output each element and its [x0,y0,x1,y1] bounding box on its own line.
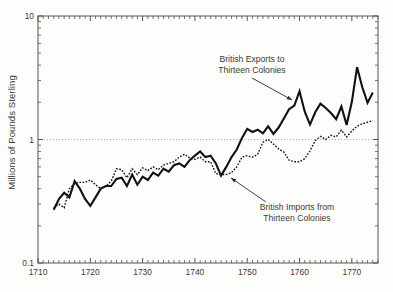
y-tick-label: 10 [25,11,35,21]
x-tick-label: 1720 [81,267,100,277]
x-tick-label: 1770 [343,267,362,277]
x-tick-label: 1760 [290,267,309,277]
imports-annotation-text: British Imports from [260,202,335,212]
x-tick-label: 1710 [29,267,48,277]
exports-annotation-text: Thirteen Colonies [218,65,285,75]
x-tick-label: 1730 [133,267,152,277]
exports-annotation-text: British Exports to [220,54,285,64]
imports-annotation-text: Thirteen Colonies [263,213,330,223]
chart-canvas: 1010.1 1710172017301740175017601770 Brit… [0,0,393,292]
y-axis-tick-labels: 1010.1 [22,11,34,268]
x-tick-label: 1740 [186,267,205,277]
x-tick-label: 1750 [238,267,257,277]
x-axis-tick-labels: 1710172017301740175017601770 [29,267,362,277]
chart-figure: 1010.1 1710172017301740175017601770 Brit… [0,0,393,292]
y-tick-label: 1 [29,135,34,145]
